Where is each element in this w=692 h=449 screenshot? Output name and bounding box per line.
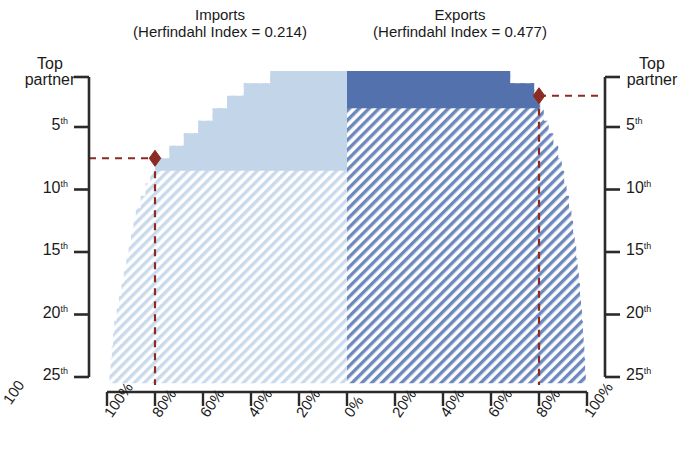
exports-solid-area [347, 71, 539, 108]
left-y-tick-suffix-15: th [60, 241, 68, 251]
imports-panel-subtitle: (Herfindahl Index = 0.214) [110, 24, 330, 40]
right-y-tick-suffix-15: th [644, 241, 652, 251]
exports-panel-subtitle: (Herfindahl Index = 0.477) [350, 24, 570, 40]
right-y-tick-value-10: 10 [626, 179, 644, 196]
right-y-tick-label-5: 5th [626, 116, 676, 133]
right-y-tick-suffix-10: th [644, 178, 652, 188]
left-y-tick-label-25: 25th [20, 366, 68, 383]
left-y-tick-label-10: 10th [20, 179, 68, 196]
plot-areas [109, 71, 585, 383]
right-axis-title: Top partner [616, 56, 688, 89]
left-axis-title: Top partner [14, 56, 86, 89]
right-y-tick-value-25: 25 [626, 366, 644, 383]
left-y-tick-value-20: 20 [43, 304, 61, 321]
right-y-tick-suffix-25: th [644, 366, 652, 376]
right-y-tick-label-10: 10th [626, 179, 676, 196]
exports-panel-title: Exports [370, 7, 550, 23]
left-axis-title-line1: Top [37, 55, 63, 72]
left-y-tick-value-10: 10 [43, 179, 61, 196]
left-y-tick-suffix-10: th [60, 178, 68, 188]
right-y-tick-suffix-5: th [635, 116, 643, 126]
right-y-tick-label-15: 15th [626, 241, 676, 258]
left-y-tick-value-25: 25 [43, 366, 61, 383]
right-axis-title-line2: partner [627, 71, 678, 88]
left-y-tick-label-5: 5th [20, 116, 68, 133]
right-y-tick-value-20: 20 [626, 304, 644, 321]
left-axis-title-line2: partner [25, 71, 76, 88]
trade-concentration-chart: Imports (Herfindahl Index = 0.214) Expor… [0, 0, 692, 449]
imports-panel-title: Imports [130, 7, 310, 23]
right-y-tick-value-15: 15 [626, 241, 644, 258]
imports-solid-area [155, 71, 347, 171]
left-y-tick-suffix-25: th [60, 366, 68, 376]
right-y-tick-label-25: 25th [626, 366, 676, 383]
left-y-tick-suffix-20: th [60, 303, 68, 313]
right-y-tick-suffix-20: th [644, 303, 652, 313]
right-y-tick-label-20: 20th [626, 304, 676, 321]
left-y-tick-label-20: 20th [20, 304, 68, 321]
left-y-tick-label-15: 15th [20, 241, 68, 258]
left-y-tick-suffix-5: th [60, 116, 68, 126]
exports-hatched-area [347, 71, 586, 383]
right-axis-title-line1: Top [639, 55, 665, 72]
left-y-tick-value-15: 15 [43, 241, 61, 258]
right-y-tick-value-5: 5 [626, 116, 635, 133]
chart-canvas [0, 0, 692, 449]
